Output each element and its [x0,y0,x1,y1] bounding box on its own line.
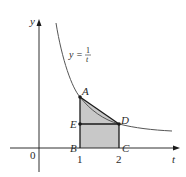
point-E-label: E [69,118,77,130]
curve-equation-numerator: 1 [86,46,90,55]
point-A-label: A [81,85,89,97]
tick-label-2: 2 [116,153,122,165]
y-axis-label: y [29,15,35,27]
curve-one-over-t [56,23,172,131]
point-E-dot [78,122,82,126]
point-B-label: B [70,142,77,154]
figure-svg: y t 0 1 2 y = 1 t A B C D E [0,0,186,177]
curve-equation-lhs: y = [68,49,83,60]
point-D-label: D [120,114,129,126]
tick-label-1: 1 [77,153,83,165]
x-axis-label: t [172,153,176,165]
x-axis-arrow-icon [173,146,180,151]
origin-label: 0 [30,149,36,161]
curve-equation-denominator: t [86,55,89,64]
diagram-canvas: y t 0 1 2 y = 1 t A B C D E [0,0,186,177]
point-C-label: C [122,142,130,154]
y-axis-arrow-icon [37,19,42,26]
